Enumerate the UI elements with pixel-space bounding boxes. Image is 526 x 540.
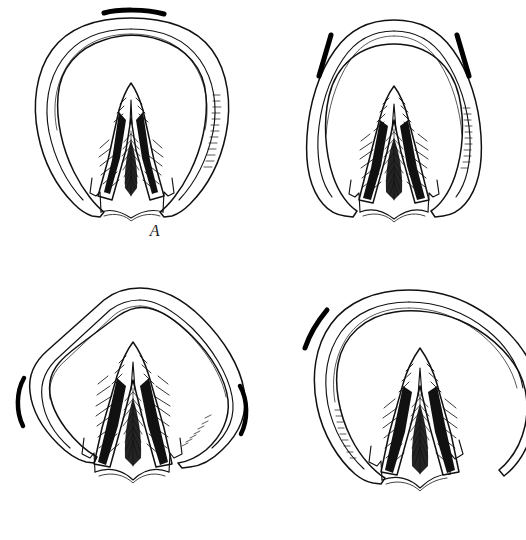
panel-c: C [0, 268, 263, 523]
panel-c-drawing [0, 268, 263, 523]
wall-texture-c [182, 415, 211, 446]
upper-left-quarter-marker-d [305, 310, 327, 348]
left-quarter-bracket-c [18, 378, 24, 426]
upper-right-quarter-marker-b [457, 35, 469, 76]
frog-feather-hatching-a [122, 131, 140, 196]
panel-a: A [0, 0, 263, 255]
hoof-frog-b [359, 86, 429, 203]
panel-label-a: A [135, 222, 175, 240]
panel-d-drawing [263, 268, 526, 523]
hoof-frog-c [94, 342, 172, 467]
panel-d: D [263, 268, 526, 523]
panel-b-drawing [263, 0, 526, 255]
panel-a-drawing [0, 0, 263, 255]
figure-root: A [0, 0, 526, 540]
toe-marker-a [104, 10, 164, 14]
upper-left-quarter-marker-b [319, 35, 331, 76]
panel-b: B [263, 0, 526, 255]
right-quarter-bracket-c [240, 386, 246, 434]
